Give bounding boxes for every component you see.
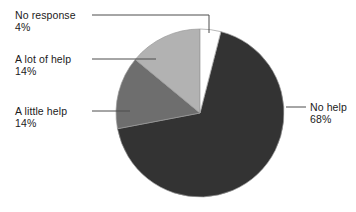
callout-no-response-value: 4% bbox=[15, 21, 76, 33]
callout-a-lot-of-help: A lot of help 14% bbox=[15, 53, 71, 78]
pie-chart-figure: No response 4% A lot of help 14% A littl… bbox=[0, 0, 356, 212]
callout-a-little-help-value: 14% bbox=[15, 117, 67, 129]
callout-no-help-label: No help bbox=[310, 101, 347, 113]
pie-slices bbox=[116, 29, 284, 197]
callout-no-response: No response 4% bbox=[15, 9, 76, 34]
callout-a-little-help-label: A little help bbox=[15, 105, 67, 117]
callout-no-help-value: 68% bbox=[310, 113, 347, 125]
callout-a-lot-of-help-label: A lot of help bbox=[15, 53, 71, 65]
callout-no-help: No help 68% bbox=[310, 101, 347, 126]
callout-a-lot-of-help-value: 14% bbox=[15, 65, 71, 77]
callout-no-response-label: No response bbox=[15, 9, 76, 21]
callout-a-little-help: A little help 14% bbox=[15, 105, 67, 130]
